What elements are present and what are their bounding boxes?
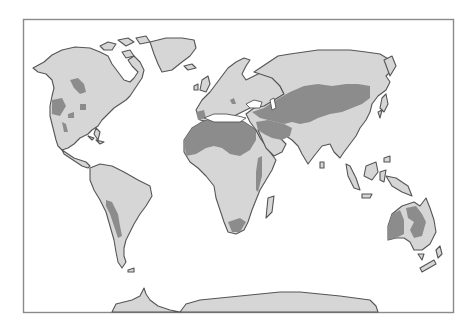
world-map [0,0,476,327]
map-canvas [0,0,476,327]
